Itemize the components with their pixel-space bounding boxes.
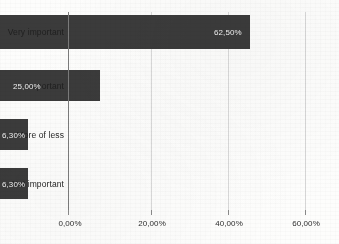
bar-value-label: 6,30% [2,130,25,139]
tick-mark-40 [228,210,229,215]
bar-value-label: 6,30% [2,179,25,188]
bar-value-label: 25,00% [13,81,41,90]
category-axis-line [68,12,69,213]
category-label-very-important: Very important [4,27,64,37]
tick-mark-20 [151,210,152,215]
tick-mark-0 [68,210,69,215]
xtick-label-60: 60,00% [292,219,320,228]
gridline-60 [305,12,306,210]
bar-chart-figure: 62,50% Very important 25,00% Important 6… [0,0,339,244]
xtick-label-20: 20,00% [138,219,166,228]
xtick-label-0: 0,00% [58,219,81,228]
bar-value-label: 62,50% [214,28,242,37]
tick-mark-60 [305,210,306,215]
xtick-label-40: 40,00% [215,219,243,228]
